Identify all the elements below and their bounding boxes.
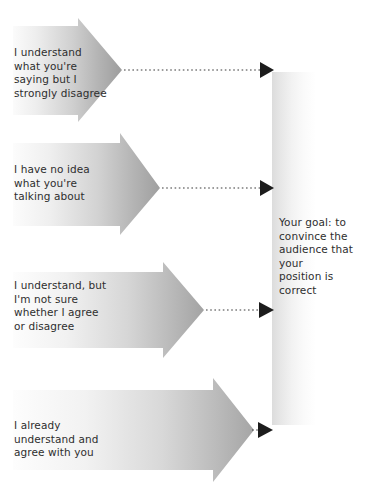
arrow-no-idea[interactable]	[13, 133, 160, 235]
connector-arrowhead-3	[259, 302, 274, 318]
arrow-not-sure[interactable]	[13, 262, 204, 358]
stance-arrows-diagram	[0, 0, 384, 496]
connector-arrowhead-4	[258, 422, 273, 438]
arrow-strongly-disagree[interactable]	[13, 18, 122, 122]
goal-bar	[272, 72, 316, 425]
connector-arrowhead-1	[260, 62, 274, 78]
connector-arrowhead-2	[260, 180, 274, 196]
arrow-already-agree[interactable]	[13, 378, 254, 482]
